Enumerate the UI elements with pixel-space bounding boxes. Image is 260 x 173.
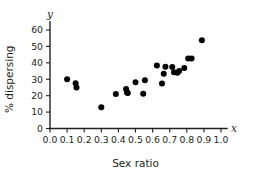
data-point: [176, 68, 182, 74]
y-axis-variable-symbol: y: [46, 8, 54, 20]
data-point: [140, 91, 146, 97]
data-point: [159, 81, 165, 87]
data-point: [162, 64, 168, 70]
plot-canvas: 0.00.10.20.30.40.50.60.70.80.91.0 010203…: [0, 0, 260, 173]
y-tick-label-6: 60: [31, 24, 43, 35]
y-tick-label-5: 50: [31, 41, 43, 52]
x-axis: [50, 129, 227, 133]
x-tick-label-1: 0.1: [60, 134, 75, 145]
scatter-plot-figure: 0.00.10.20.30.40.50.60.70.80.91.0 010203…: [0, 0, 260, 173]
y-tick-label-0: 0: [37, 123, 43, 134]
data-point: [142, 77, 148, 83]
data-point: [125, 90, 131, 96]
x-axis-title: Sex ratio: [112, 157, 159, 169]
y-tick-label-3: 30: [31, 74, 43, 85]
x-tick-label-10: 1.0: [214, 134, 229, 145]
x-axis-variable-symbol: x: [231, 122, 237, 134]
data-point: [181, 65, 187, 71]
x-tick-label-0: 0.0: [43, 134, 58, 145]
data-point: [169, 64, 175, 70]
data-point: [98, 104, 104, 110]
x-tick-label-3: 0.3: [94, 134, 109, 145]
data-point: [154, 62, 160, 68]
x-tick-label-5: 0.5: [128, 134, 143, 145]
x-tick-label-7: 0.7: [162, 134, 177, 145]
x-tick-label-6: 0.6: [145, 134, 160, 145]
x-tick-label-9: 0.9: [197, 134, 212, 145]
y-axis: [46, 22, 50, 129]
x-tick-label-8: 0.8: [179, 134, 194, 145]
x-tick-labels: 0.00.10.20.30.40.50.60.70.80.91.0: [43, 134, 229, 145]
data-point: [161, 71, 167, 77]
y-tick-label-4: 40: [31, 57, 43, 68]
data-point: [113, 91, 119, 97]
data-points-layer: [64, 37, 205, 110]
x-tick-label-4: 0.4: [111, 134, 126, 145]
data-point: [74, 84, 80, 90]
data-point: [199, 37, 205, 43]
y-axis-title: % dispersing: [3, 45, 15, 113]
data-point: [133, 79, 139, 85]
y-tick-labels: 0102030405060: [31, 24, 43, 133]
x-tick-label-2: 0.2: [77, 134, 92, 145]
y-tick-label-2: 20: [31, 90, 43, 101]
data-point: [189, 56, 195, 62]
y-tick-label-1: 10: [31, 106, 43, 117]
data-point: [64, 76, 70, 82]
